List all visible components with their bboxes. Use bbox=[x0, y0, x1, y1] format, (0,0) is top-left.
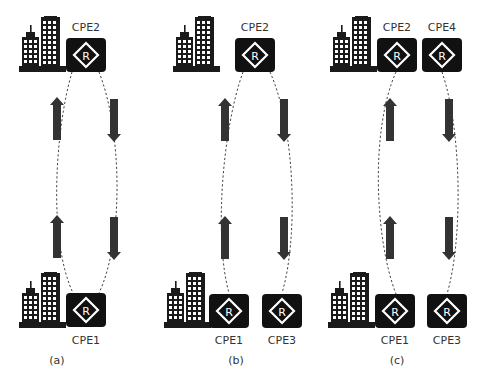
device-label-cpe1: CPE1 bbox=[215, 334, 243, 347]
panel-b: CPE2 CPE1 CPE3 (b) bbox=[164, 16, 302, 367]
router-icon-cpe2 bbox=[377, 38, 417, 72]
device-label-cpe1: CPE1 bbox=[381, 334, 409, 347]
building-icon bbox=[164, 272, 211, 328]
device-label-cpe3: CPE3 bbox=[433, 334, 461, 347]
building-icon bbox=[19, 16, 66, 72]
router-icon-cpe2 bbox=[66, 38, 106, 72]
router-icon-cpe3 bbox=[262, 294, 302, 328]
arrow-up-icon bbox=[50, 215, 64, 258]
arrow-up-icon bbox=[383, 98, 397, 141]
router-icon-cpe1 bbox=[375, 294, 415, 328]
panel-c: CPE2 CPE4 CPE1 CPE3 (c) bbox=[328, 16, 467, 367]
arrow-down-icon bbox=[107, 217, 121, 260]
device-label-cpe2: CPE2 bbox=[383, 21, 411, 34]
arrow-down-icon bbox=[277, 217, 291, 260]
device-label-cpe2: CPE2 bbox=[241, 21, 269, 34]
figure: R CPE2 CPE1 (a) CPE2 CPE1 bbox=[0, 0, 479, 381]
arrow-down-icon bbox=[277, 99, 291, 142]
device-label-cpe3: CPE3 bbox=[268, 334, 296, 347]
arrow-up-icon bbox=[50, 97, 64, 140]
router-icon-cpe1 bbox=[66, 293, 106, 327]
device-label-cpe1: CPE1 bbox=[72, 334, 100, 347]
router-icon-cpe2 bbox=[235, 38, 275, 72]
panel-a: CPE2 CPE1 (a) bbox=[19, 16, 121, 367]
router-icon-cpe3 bbox=[427, 294, 467, 328]
building-icon bbox=[19, 272, 66, 328]
arrow-down-icon bbox=[107, 99, 121, 142]
arrow-down-icon bbox=[442, 217, 456, 260]
panel-caption-a: (a) bbox=[49, 354, 64, 367]
router-icon-cpe4 bbox=[422, 38, 462, 72]
panel-caption-c: (c) bbox=[390, 354, 405, 367]
device-label-cpe2: CPE2 bbox=[72, 21, 100, 34]
building-icon bbox=[173, 16, 220, 72]
arrow-up-icon bbox=[218, 216, 232, 259]
arrow-down-icon bbox=[442, 99, 456, 142]
building-icon bbox=[328, 272, 375, 328]
router-icon-cpe1 bbox=[209, 294, 249, 328]
panel-caption-b: (b) bbox=[228, 354, 244, 367]
building-icon bbox=[330, 16, 377, 72]
arrow-up-icon bbox=[218, 98, 232, 141]
device-label-cpe4: CPE4 bbox=[428, 21, 456, 34]
arrow-up-icon bbox=[383, 216, 397, 259]
